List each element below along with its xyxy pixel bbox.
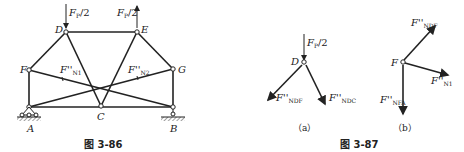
node-label-B: B [169, 123, 177, 134]
caption-3-87: 图 3-87 [340, 139, 379, 150]
fbd-a-force-NDC: F''NDC [328, 92, 356, 104]
fbd-b-node-F: F [390, 57, 399, 68]
node-label-A: A [26, 123, 34, 134]
pin-support-A [17, 107, 41, 121]
roller-support-B [161, 109, 185, 121]
fbd-b-force-N1: F''N1 [430, 75, 453, 87]
fbd-b-label: （b） [393, 123, 417, 133]
force-label-N1: F''N1 [59, 64, 82, 76]
caption-3-86: 图 3-86 [84, 139, 123, 150]
force-label-N2: F''N2 [127, 64, 150, 76]
node-label-F: F [19, 64, 28, 75]
truss-joints [27, 30, 175, 109]
node-label-D: D [54, 24, 63, 35]
fbd-a-label: （a） [293, 123, 316, 133]
node-label-C: C [97, 111, 105, 122]
load-label-E: FP/2 [116, 7, 138, 19]
fbd-a-load-label: FP/2 [306, 37, 328, 49]
node-label-E: E [140, 24, 149, 35]
truss-figure-3-86 [29, 32, 173, 107]
figure-canvas: FP/2 FP/2 D E F G A C B F''N1 F''N2 图 3-… [0, 0, 464, 152]
load-label-D: FP/2 [68, 7, 90, 19]
free-body-F [401, 26, 448, 114]
fbd-a-node-D: D [290, 56, 299, 67]
node-label-G: G [178, 64, 186, 75]
fbd-a-force-NDF: F''NDF [275, 92, 303, 104]
fbd-b-force-NDF: F''NDF [410, 17, 438, 29]
